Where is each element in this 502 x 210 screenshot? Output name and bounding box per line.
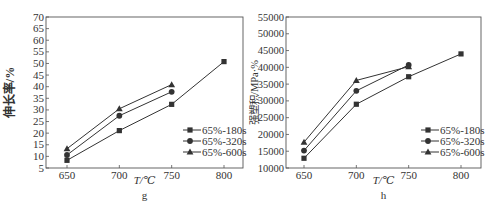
y-tick-label: 35000 [258, 79, 284, 90]
series-line [67, 92, 172, 155]
square-marker-icon [301, 156, 306, 161]
x-tick-label: 650 [296, 169, 313, 181]
y-tick-label: 40000 [258, 62, 284, 73]
square-marker-icon [458, 51, 463, 56]
series-line [67, 62, 224, 161]
y-axis-label: 强塑积/MPa·% [248, 60, 260, 125]
x-tick-label: 700 [348, 169, 365, 181]
circle-marker-icon [425, 138, 431, 144]
circle-marker-icon [64, 152, 70, 158]
chart-panel-h: 1000015000200002500030000350004000045000… [248, 12, 485, 202]
x-axis-label: T/℃ [373, 174, 395, 186]
y-tick-label: 10000 [258, 163, 284, 174]
y-tick-label: 30 [33, 103, 45, 115]
x-axis-label: T/℃ [134, 174, 156, 186]
chart-panel-g: 510152025303540455055606570650700750800T… [2, 11, 247, 202]
x-tick-label: 800 [453, 169, 470, 181]
y-tick-label: 35 [33, 92, 45, 104]
circle-marker-icon [301, 148, 307, 154]
y-tick-label: 10 [33, 150, 45, 162]
y-tick-label: 55000 [258, 12, 284, 23]
x-tick-label: 800 [216, 169, 233, 181]
circle-marker-icon [116, 113, 122, 119]
legend-label: 65%-600s [202, 146, 247, 158]
series-65%-320s [64, 89, 174, 158]
y-tick-label: 15 [33, 138, 45, 150]
circle-marker-icon [169, 89, 175, 95]
y-tick-label: 55 [33, 45, 45, 57]
y-tick-label: 20000 [258, 129, 284, 140]
square-marker-icon [64, 158, 69, 163]
y-tick-label: 50 [33, 57, 45, 69]
triangle-marker-icon [168, 81, 175, 87]
y-tick-label: 65 [33, 22, 45, 34]
legend-item: 65%-600s [183, 146, 247, 158]
square-marker-icon [406, 74, 411, 79]
square-marker-icon [354, 102, 359, 107]
y-tick-label: 15000 [258, 146, 284, 157]
x-tick-label: 750 [163, 169, 180, 181]
y-tick-label: 25 [33, 115, 45, 127]
y-tick-label: 45000 [258, 45, 284, 56]
y-tick-label: 40 [33, 80, 45, 92]
panel-label: g [142, 189, 148, 201]
square-marker-icon [169, 102, 174, 107]
circle-marker-icon [353, 88, 359, 94]
x-tick-label: 650 [59, 169, 76, 181]
y-tick-label: 45 [33, 69, 45, 81]
x-tick-label: 700 [111, 169, 128, 181]
y-tick-label: 60 [33, 34, 45, 46]
panel-label: h [381, 189, 387, 201]
y-axis-label: 伸长率/% [2, 67, 17, 119]
square-marker-icon [187, 127, 192, 132]
circle-marker-icon [187, 138, 193, 144]
y-tick-label: 25000 [258, 112, 284, 123]
series-line [304, 54, 461, 158]
square-marker-icon [221, 59, 226, 64]
series-65%-320s [301, 62, 411, 153]
x-tick-label: 750 [400, 169, 417, 181]
y-tick-label: 30000 [258, 95, 284, 106]
square-marker-icon [425, 127, 430, 132]
y-tick-label: 50000 [258, 28, 284, 39]
square-marker-icon [117, 128, 122, 133]
y-tick-label: 5 [39, 162, 45, 174]
triangle-marker-icon [116, 105, 123, 111]
legend-item: 65%-600s [421, 146, 485, 158]
figure: 510152025303540455055606570650700750800T… [0, 0, 502, 210]
y-tick-label: 20 [33, 127, 45, 139]
triangle-marker-icon [64, 145, 71, 151]
legend-label: 65%-600s [440, 146, 485, 158]
y-tick-label: 70 [33, 11, 45, 23]
